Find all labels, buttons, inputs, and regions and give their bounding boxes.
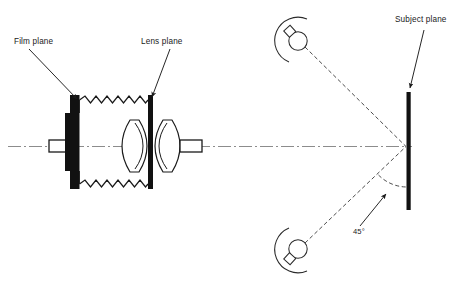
angle-arc: [379, 175, 407, 187]
light-bottom: [275, 228, 308, 273]
leader-line-subject-plane: [410, 30, 424, 88]
label-angle-45: 45°: [353, 227, 365, 236]
leader-line-angle: [360, 194, 386, 226]
light-rays: [305, 47, 406, 243]
subject-plane-bar: [407, 92, 411, 210]
bellows-top: [80, 96, 149, 103]
film-plane-bar: [65, 95, 80, 189]
label-lens-plane: Lens plane: [141, 37, 183, 46]
optical-copy-setup-diagram: Film plane Lens plane Subject plane 45°: [0, 0, 472, 294]
diagram-canvas: Film plane Lens plane Subject plane 45°: [0, 0, 472, 294]
lens-barrel: [180, 140, 202, 152]
label-subject-plane: Subject plane: [395, 15, 447, 24]
camera-assembly: [49, 95, 202, 189]
leader-line-film-plane: [29, 49, 77, 99]
bellows-bottom: [80, 180, 149, 187]
label-film-plane: Film plane: [14, 37, 54, 46]
leader-line-lens-plane: [152, 49, 170, 97]
ray-top: [305, 47, 406, 147]
light-top: [275, 17, 308, 62]
lens-element: [122, 118, 180, 174]
